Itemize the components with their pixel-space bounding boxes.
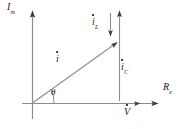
phase-angle-label: θ	[51, 88, 55, 97]
voltage-v-label-base: V	[124, 107, 130, 117]
imaginary-axis-label-subscript: m	[10, 8, 14, 15]
current-ic-label-subscript: C	[124, 68, 128, 75]
real-axis-label: Re	[163, 82, 172, 94]
phasor-diagram-figure: Im Re i i L i C V θ	[0, 0, 183, 129]
current-i-label: i	[56, 54, 59, 64]
overdot-marker-il	[92, 14, 94, 16]
voltage-v-label: V	[124, 107, 130, 117]
current-il-label: i L	[92, 17, 98, 29]
voltage-v-label-text: V	[124, 106, 130, 117]
current-ic-label: i C	[121, 62, 128, 74]
overdot-marker-i	[56, 51, 58, 53]
imaginary-axis-label: Im	[7, 2, 15, 14]
current-vector-i	[33, 43, 118, 104]
overdot-marker-ic	[121, 59, 123, 61]
real-axis-label-subscript: e	[169, 88, 172, 95]
current-i-label-base: i	[56, 54, 59, 64]
current-i-label-text: i	[56, 53, 59, 64]
current-il-label-subscript: L	[95, 23, 98, 30]
overdot-marker-v	[126, 104, 128, 106]
